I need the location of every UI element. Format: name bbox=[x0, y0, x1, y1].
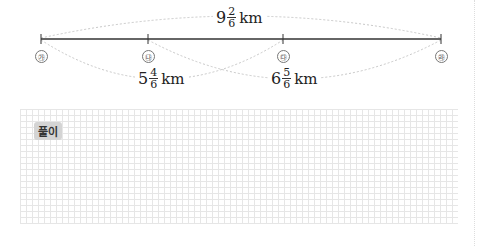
denominator: 6 bbox=[149, 79, 158, 90]
solution-tag: 풀이 bbox=[34, 122, 62, 140]
total-distance-label: 9 2 6 km bbox=[213, 6, 266, 29]
unit: km bbox=[294, 70, 317, 88]
fraction: 5 6 bbox=[282, 67, 291, 90]
page-edge-divider bbox=[474, 0, 478, 246]
whole-part: 9 bbox=[216, 8, 226, 27]
whole-part: 6 bbox=[271, 69, 281, 88]
unit: km bbox=[239, 9, 262, 27]
denominator: 6 bbox=[227, 18, 236, 29]
na-ra-distance-label: 6 5 6 km bbox=[268, 67, 321, 90]
point-na: ㉯ bbox=[142, 50, 155, 63]
distance-diagram: ㉮ ㉯ ㉰ ㉱ 9 2 6 km 5 4 6 km 6 5 6 km bbox=[0, 0, 478, 100]
ga-da-distance-label: 5 4 6 km bbox=[135, 67, 188, 90]
fraction: 2 6 bbox=[227, 6, 236, 29]
unit: km bbox=[161, 70, 184, 88]
whole-part: 5 bbox=[138, 69, 148, 88]
denominator: 6 bbox=[282, 79, 291, 90]
fraction: 4 6 bbox=[149, 67, 158, 90]
point-ga: ㉮ bbox=[35, 50, 48, 63]
solution-grid-area[interactable]: 풀이 bbox=[20, 109, 458, 224]
point-ra: ㉱ bbox=[435, 50, 448, 63]
point-da: ㉰ bbox=[277, 50, 290, 63]
